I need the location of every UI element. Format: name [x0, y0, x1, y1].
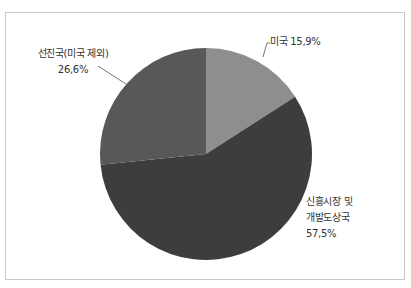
label-em-line1: 신흥시장 및	[306, 194, 352, 210]
leader-line-us	[263, 43, 270, 57]
label-adv-line2: 26,6%	[28, 62, 118, 78]
label-us: 미국 15,9%	[270, 34, 321, 50]
pie-chart	[0, 0, 411, 288]
label-advanced-ex-us: 선진국(미국 제외) 26,6%	[28, 46, 118, 78]
label-em-line3: 57,5%	[306, 226, 352, 242]
label-em-line2: 개발도상국	[306, 210, 352, 226]
label-emerging-markets: 신흥시장 및 개발도상국 57,5%	[306, 194, 352, 242]
label-adv-line1: 선진국(미국 제외)	[28, 46, 118, 62]
